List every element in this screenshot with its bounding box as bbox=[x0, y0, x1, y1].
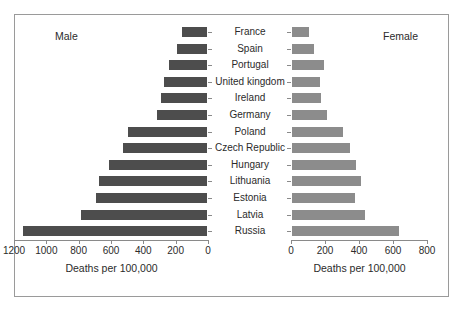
male-axis-tick bbox=[176, 240, 177, 244]
male-axis-tick-label: 0 bbox=[188, 245, 228, 256]
male-bar-row bbox=[14, 41, 208, 58]
female-row-tick bbox=[287, 32, 291, 33]
female-axis-tick-label: 800 bbox=[407, 245, 447, 256]
female-bar-row bbox=[291, 124, 427, 141]
category-label: Latvia bbox=[209, 207, 291, 224]
female-row-tick bbox=[287, 115, 291, 116]
female-row-tick bbox=[287, 49, 291, 50]
female-bar[interactable] bbox=[291, 159, 357, 171]
male-bar[interactable] bbox=[181, 26, 208, 38]
male-axis-tick bbox=[79, 240, 80, 244]
male-bar[interactable] bbox=[176, 43, 208, 55]
male-bar[interactable] bbox=[80, 209, 208, 221]
female-bar[interactable] bbox=[291, 76, 321, 88]
female-axis-tick bbox=[427, 240, 428, 244]
female-bar-row bbox=[291, 74, 427, 91]
category-label: Portugal bbox=[209, 57, 291, 74]
female-bar[interactable] bbox=[291, 92, 322, 104]
female-axis-tick bbox=[291, 240, 292, 244]
male-bar-row bbox=[14, 173, 208, 190]
female-bar[interactable] bbox=[291, 59, 325, 71]
category-label: Czech Republic bbox=[209, 140, 291, 157]
female-bar[interactable] bbox=[291, 225, 400, 237]
category-label: Ireland bbox=[209, 90, 291, 107]
female-bar-row bbox=[291, 24, 427, 41]
category-label: Estonia bbox=[209, 190, 291, 207]
male-bar-row bbox=[14, 140, 208, 157]
male-bar-row bbox=[14, 207, 208, 224]
female-bar-rows bbox=[291, 24, 427, 240]
male-axis-tick bbox=[143, 240, 144, 244]
male-bar[interactable] bbox=[122, 142, 208, 154]
female-bar[interactable] bbox=[291, 109, 328, 121]
male-bar[interactable] bbox=[163, 76, 208, 88]
male-bar[interactable] bbox=[160, 92, 209, 104]
category-label: Germany bbox=[209, 107, 291, 124]
male-bar-rows bbox=[14, 24, 208, 240]
chart-figure: Male Female FranceSpainPortugalUnited ki… bbox=[0, 0, 463, 323]
female-bar-row bbox=[291, 207, 427, 224]
female-bar[interactable] bbox=[291, 26, 310, 38]
male-bar-row bbox=[14, 107, 208, 124]
male-axis-tick bbox=[111, 240, 112, 244]
male-bar-row bbox=[14, 223, 208, 240]
female-axis-tick bbox=[393, 240, 394, 244]
female-row-tick bbox=[287, 98, 291, 99]
female-bar-row bbox=[291, 57, 427, 74]
male-bar[interactable] bbox=[108, 159, 208, 171]
female-bar-row bbox=[291, 190, 427, 207]
male-bar-row bbox=[14, 190, 208, 207]
male-bar-row bbox=[14, 74, 208, 91]
female-bar-row bbox=[291, 173, 427, 190]
male-bar[interactable] bbox=[98, 175, 208, 187]
female-bar-row bbox=[291, 157, 427, 174]
category-label: Lithuania bbox=[209, 173, 291, 190]
male-axis-tick bbox=[14, 240, 15, 244]
category-label: Spain bbox=[209, 41, 291, 58]
category-label-column: FranceSpainPortugalUnited kingdomIreland… bbox=[209, 24, 291, 240]
category-label: Poland bbox=[209, 124, 291, 141]
male-bar-row bbox=[14, 124, 208, 141]
male-bar[interactable] bbox=[168, 59, 208, 71]
female-bar-row bbox=[291, 223, 427, 240]
male-x-axis-title: Deaths per 100,000 bbox=[14, 262, 209, 274]
male-bar-row bbox=[14, 24, 208, 41]
female-bar[interactable] bbox=[291, 126, 344, 138]
female-row-tick bbox=[287, 165, 291, 166]
male-bar-row bbox=[14, 90, 208, 107]
female-row-tick bbox=[287, 231, 291, 232]
female-axis-tick bbox=[325, 240, 326, 244]
female-bar-row bbox=[291, 107, 427, 124]
female-bar[interactable] bbox=[291, 43, 315, 55]
female-row-tick bbox=[287, 148, 291, 149]
female-row-tick bbox=[287, 82, 291, 83]
female-row-tick bbox=[287, 181, 291, 182]
male-bar[interactable] bbox=[127, 126, 208, 138]
male-axis-tick bbox=[46, 240, 47, 244]
female-x-axis-title: Deaths per 100,000 bbox=[291, 262, 428, 274]
female-bar-row bbox=[291, 90, 427, 107]
male-bar[interactable] bbox=[22, 225, 208, 237]
female-bar-row bbox=[291, 41, 427, 58]
male-bars-panel bbox=[14, 24, 208, 240]
female-bar[interactable] bbox=[291, 209, 366, 221]
female-bar[interactable] bbox=[291, 192, 356, 204]
female-bar[interactable] bbox=[291, 175, 362, 187]
male-bar-row bbox=[14, 57, 208, 74]
female-row-tick bbox=[287, 132, 291, 133]
female-axis-tick bbox=[359, 240, 360, 244]
female-bar-row bbox=[291, 140, 427, 157]
category-label: Russia bbox=[209, 223, 291, 240]
male-bar[interactable] bbox=[95, 192, 208, 204]
male-bar-row bbox=[14, 157, 208, 174]
male-axis-tick bbox=[208, 240, 209, 244]
female-row-tick bbox=[287, 215, 291, 216]
category-label: Hungary bbox=[209, 157, 291, 174]
female-row-tick bbox=[287, 198, 291, 199]
category-label: United kingdom bbox=[209, 74, 291, 91]
female-bars-panel bbox=[291, 24, 427, 240]
female-bar[interactable] bbox=[291, 142, 351, 154]
female-row-tick bbox=[287, 65, 291, 66]
male-bar[interactable] bbox=[156, 109, 208, 121]
category-label: France bbox=[209, 24, 291, 41]
